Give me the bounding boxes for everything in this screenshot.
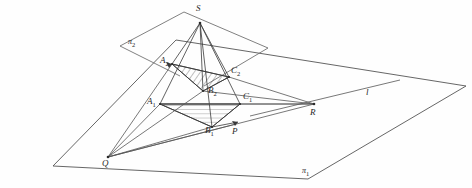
vertex-C2 <box>228 76 230 78</box>
ray-C2-R <box>229 77 314 104</box>
ray-Q-A1b <box>108 104 160 157</box>
ray-Q-B1 <box>108 127 212 157</box>
plane-pi2-edge-left <box>120 46 180 76</box>
label-B2: B2 <box>208 86 217 97</box>
vertex-B2 <box>202 90 204 92</box>
label-C2: C2 <box>231 66 240 77</box>
label-A1: A1 <box>147 97 156 108</box>
label-C1: C1 <box>243 92 252 103</box>
vertex-C1 <box>239 103 241 105</box>
vertex-S <box>199 22 202 25</box>
label-Q: Q <box>102 159 109 170</box>
figure-canvas <box>0 0 472 188</box>
geometry-figure: S A2 C2 B2 A1 C1 B1 P Q R l π1 π2 <box>0 0 472 188</box>
shaded-face-upper <box>172 64 229 91</box>
label-line-l: l <box>366 88 369 99</box>
label-B1: B1 <box>205 126 214 137</box>
label-R: R <box>310 108 316 119</box>
plane-pi1-outline <box>53 40 466 179</box>
edge-S-C1 <box>200 23 240 104</box>
vertex-R <box>313 103 316 106</box>
label-plane-pi2: π2 <box>128 38 135 48</box>
label-S: S <box>196 4 201 15</box>
label-A2: A2 <box>160 56 169 67</box>
ray-B2-R <box>203 91 314 104</box>
label-P: P <box>232 127 238 138</box>
line-l <box>250 80 400 116</box>
label-plane-pi1: π1 <box>302 167 309 177</box>
vertex-A1 <box>159 103 161 105</box>
vertex-A2 <box>171 63 173 65</box>
